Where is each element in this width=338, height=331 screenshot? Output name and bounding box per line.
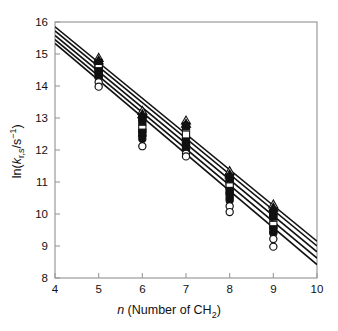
data-point-square xyxy=(182,123,189,130)
y-tick-label: 15 xyxy=(35,48,48,60)
plot-area: 456789108910111213141516 xyxy=(0,0,338,331)
data-point-square xyxy=(182,131,189,138)
y-tick-label: 14 xyxy=(35,80,48,92)
y-tick-label: 13 xyxy=(35,112,48,124)
chart-figure: ln(kr,s/s−1) n (Number of CH2) 456789108… xyxy=(0,0,338,331)
data-point-circle xyxy=(182,153,189,160)
data-point-square xyxy=(139,118,146,125)
data-point-circle xyxy=(270,243,277,250)
x-tick-label: 8 xyxy=(226,283,232,295)
y-tick-label: 10 xyxy=(35,208,48,220)
x-tick-label: 10 xyxy=(311,283,324,295)
y-tick-label: 16 xyxy=(35,16,48,28)
x-tick-label: 9 xyxy=(270,283,276,295)
data-point-circle xyxy=(270,235,277,242)
x-tick-label: 4 xyxy=(52,283,59,295)
y-tick-label: 11 xyxy=(36,176,48,188)
y-tick-label: 9 xyxy=(42,240,48,252)
data-point-square xyxy=(270,213,277,220)
x-tick-label: 6 xyxy=(139,283,145,295)
data-point-circle xyxy=(139,136,146,143)
data-point-circle xyxy=(139,143,146,150)
x-tick-label: 5 xyxy=(95,283,101,295)
x-tick-label: 7 xyxy=(183,283,189,295)
y-tick-label: 8 xyxy=(42,272,48,284)
data-point-circle xyxy=(226,208,233,215)
data-point-circle xyxy=(95,83,102,90)
y-tick-label: 12 xyxy=(35,144,48,156)
